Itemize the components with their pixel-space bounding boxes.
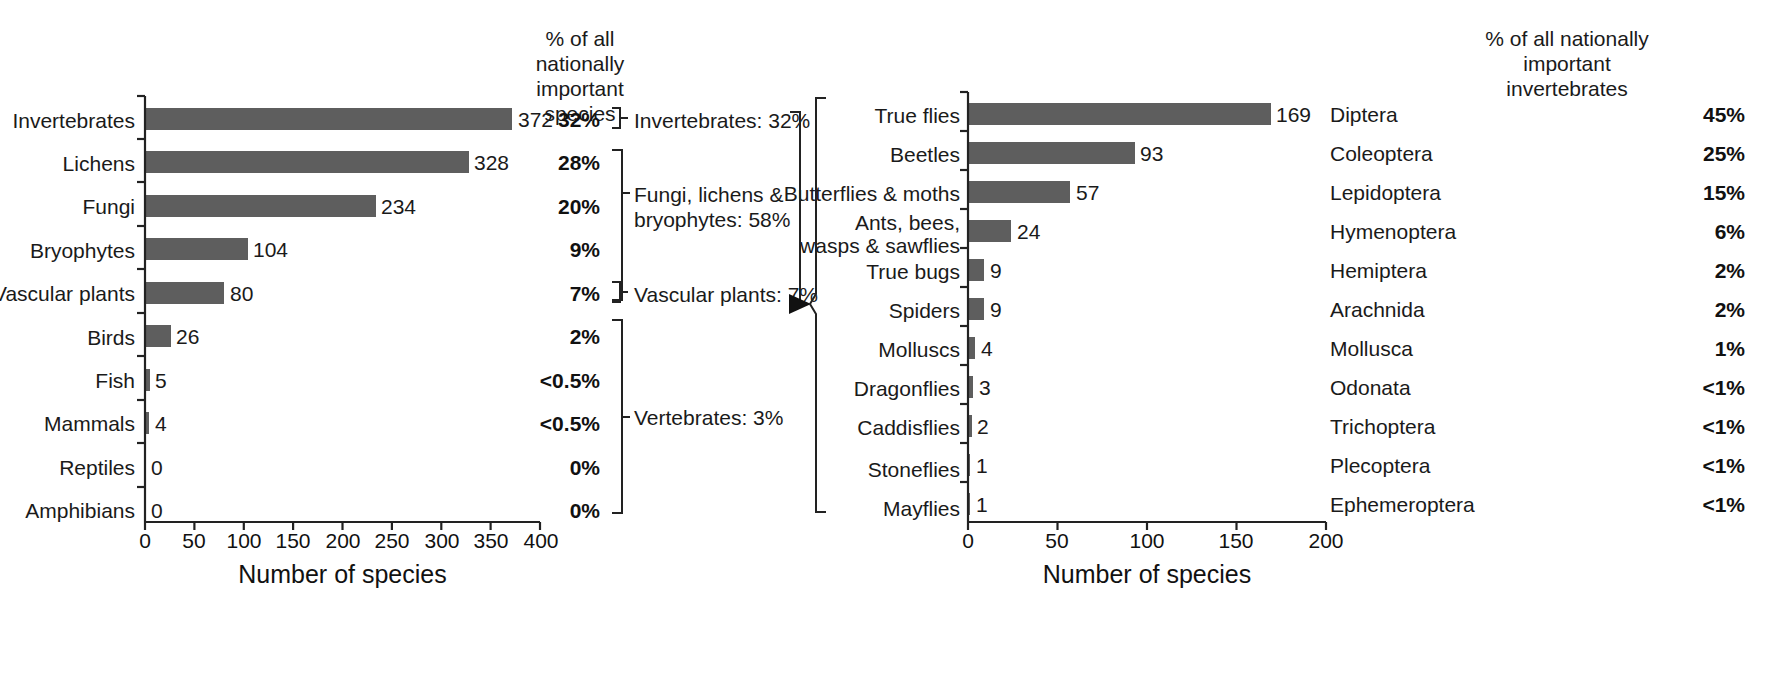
taxon-name-7: Odonata — [1330, 376, 1411, 400]
left-xtick-5: 250 — [367, 529, 417, 553]
taxon-percent-2: 15% — [1600, 181, 1745, 205]
left-bar-invertebrates — [145, 108, 512, 130]
right-bar-true-flies — [968, 103, 1271, 125]
right-cat-label-3: Ants, bees, wasps & sawflies — [780, 211, 960, 257]
left-value-label-7: 4 — [155, 412, 167, 436]
right-value-label-4: 9 — [990, 259, 1002, 283]
right-cat-label-0: True flies — [780, 104, 960, 127]
right-bar-ants-bees-wasps — [968, 220, 1011, 242]
taxon-percent-8: <1% — [1600, 415, 1745, 439]
left-value-label-2: 234 — [381, 195, 416, 219]
left-xtick-6: 300 — [417, 529, 467, 553]
right-bar-true-bugs — [968, 259, 984, 281]
right-value-label-5: 9 — [990, 298, 1002, 322]
left-percent-label-2: 20% — [500, 195, 600, 219]
left-cat-label-7: Mammals — [0, 412, 135, 435]
taxon-percent-4: 2% — [1600, 259, 1745, 283]
left-xtick-2: 100 — [219, 529, 269, 553]
left-cat-label-4: Vascular plants — [0, 282, 135, 305]
taxon-name-10: Ephemeroptera — [1330, 493, 1475, 517]
left-cat-label-8: Reptiles — [0, 456, 135, 479]
right-value-label-6: 4 — [981, 337, 993, 361]
left-cat-label-9: Amphibians — [0, 499, 135, 522]
left-bar-fungi — [145, 195, 376, 217]
right-value-label-7: 3 — [979, 376, 991, 400]
left-percent-label-4: 7% — [500, 282, 600, 306]
left-percent-label-6: <0.5% — [500, 369, 600, 393]
left-percent-label-3: 9% — [500, 238, 600, 262]
right-value-label-3: 24 — [1017, 220, 1040, 244]
left-bar-mammals — [145, 412, 149, 434]
left-bar-birds — [145, 325, 171, 347]
right-value-label-1: 93 — [1140, 142, 1163, 166]
left-xaxis-title: Number of species — [145, 560, 540, 589]
right-xaxis-title: Number of species — [968, 560, 1326, 589]
right-xtick-4: 200 — [1301, 529, 1351, 553]
left-value-label-8: 0 — [151, 456, 163, 480]
right-xtick-3: 150 — [1211, 529, 1261, 553]
left-percent-label-9: 0% — [500, 499, 600, 523]
left-value-label-6: 5 — [155, 369, 167, 393]
taxon-percent-0: 45% — [1600, 103, 1745, 127]
right-cat-label-5: Spiders — [780, 299, 960, 322]
left-xtick-3: 150 — [268, 529, 318, 553]
taxon-name-4: Hemiptera — [1330, 259, 1427, 283]
group-bracket-vertebrates — [612, 320, 630, 513]
taxon-name-9: Plecoptera — [1330, 454, 1430, 478]
left-value-label-9: 0 — [151, 499, 163, 523]
right-xtick-2: 100 — [1122, 529, 1172, 553]
left-percent-label-8: 0% — [500, 456, 600, 480]
left-bar-fish — [145, 369, 150, 391]
right-value-label-9: 1 — [976, 454, 988, 478]
right-xtick-1: 50 — [1032, 529, 1082, 553]
taxon-name-0: Diptera — [1330, 103, 1398, 127]
left-xtick-8: 400 — [516, 529, 566, 553]
right-bar-molluscs — [968, 337, 975, 359]
left-xtick-0: 0 — [120, 529, 170, 553]
group-label-vertebrates: Vertebrates: 3% — [634, 405, 783, 430]
taxon-percent-6: 1% — [1600, 337, 1745, 361]
right-cat-label-9: Stoneflies — [780, 458, 960, 481]
left-cat-label-0: Invertebrates — [0, 109, 135, 132]
right-cat-label-10: Mayflies — [780, 497, 960, 520]
taxon-name-2: Lepidoptera — [1330, 181, 1441, 205]
taxon-percent-7: <1% — [1600, 376, 1745, 400]
right-cat-label-7: Dragonflies — [780, 377, 960, 400]
taxon-name-6: Mollusca — [1330, 337, 1413, 361]
left-cat-label-6: Fish — [0, 369, 135, 392]
right-cat-label-1: Beetles — [780, 143, 960, 166]
left-value-label-5: 26 — [176, 325, 199, 349]
group-label-fungi-lichens-bryophytes: Fungi, lichens & bryophytes: 58% — [634, 182, 790, 232]
taxon-percent-3: 6% — [1600, 220, 1745, 244]
left-cat-label-1: Lichens — [0, 152, 135, 175]
group-bracket-vascular-plants — [612, 282, 628, 302]
left-cat-label-3: Bryophytes — [0, 239, 135, 262]
taxon-name-3: Hymenoptera — [1330, 220, 1456, 244]
right-cat-label-6: Molluscs — [780, 338, 960, 361]
taxon-name-8: Trichoptera — [1330, 415, 1435, 439]
right-xtick-0: 0 — [943, 529, 993, 553]
taxon-percent-9: <1% — [1600, 454, 1745, 478]
left-percent-label-5: 2% — [500, 325, 600, 349]
right-value-label-0: 169 — [1276, 103, 1311, 127]
right-bar-dragonflies — [968, 376, 973, 398]
right-cat-label-8: Caddisflies — [780, 416, 960, 439]
right-bar-beetles — [968, 142, 1135, 164]
left-value-label-3: 104 — [253, 238, 288, 262]
left-percent-label-1: 28% — [500, 151, 600, 175]
right-cat-label-2: Butterflies & moths — [780, 182, 960, 205]
taxon-percent-1: 25% — [1600, 142, 1745, 166]
right-bar-butterflies-moths — [968, 181, 1070, 203]
left-percent-label-0: 32% — [500, 108, 600, 132]
taxon-name-5: Arachnida — [1330, 298, 1425, 322]
right-bar-spiders — [968, 298, 984, 320]
right-value-label-8: 2 — [977, 415, 989, 439]
left-cat-label-5: Birds — [0, 326, 135, 349]
right-cat-label-4: True bugs — [780, 260, 960, 283]
left-bar-lichens — [145, 151, 469, 173]
right-chart-percent-header: % of all nationally important invertebra… — [1432, 26, 1702, 101]
group-bracket-fungi-lichens-bryophytes — [612, 150, 630, 300]
right-bar-mayflies — [968, 493, 970, 515]
right-value-label-2: 57 — [1076, 181, 1099, 205]
taxon-percent-5: 2% — [1600, 298, 1745, 322]
